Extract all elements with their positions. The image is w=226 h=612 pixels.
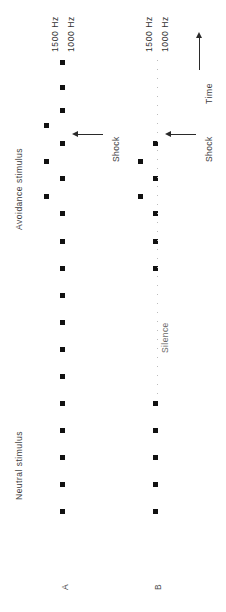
panel-b-shock-arrow-head — [165, 131, 171, 137]
silence-dot — [157, 366, 158, 367]
silence-dot — [157, 267, 158, 268]
silence-dot — [157, 123, 158, 124]
silence-dot — [157, 150, 158, 151]
silence-dot — [157, 132, 158, 133]
silence-dot — [157, 294, 158, 295]
silence-dot — [157, 375, 158, 376]
silence-dot — [157, 240, 158, 241]
panel-label-a: A — [60, 584, 70, 590]
tone-marker — [60, 176, 65, 181]
panel-a-shock-arrow-line — [77, 134, 103, 135]
tone-marker — [44, 194, 49, 199]
silence-dot — [157, 177, 158, 178]
silence-dot — [157, 96, 158, 97]
tone-marker — [153, 482, 158, 487]
silence-label: Silence — [160, 320, 170, 355]
tone-marker — [60, 293, 65, 298]
category-label-neutral: Neutral stimulus — [14, 431, 24, 500]
time-axis-label: Time — [204, 83, 214, 104]
silence-dot — [157, 195, 158, 196]
silence-dot — [157, 213, 158, 214]
time-arrow-line — [199, 38, 200, 70]
tone-marker — [60, 428, 65, 433]
silence-dot — [157, 393, 158, 394]
tone-marker — [44, 159, 49, 164]
tone-marker — [60, 211, 65, 216]
silence-dot — [157, 276, 158, 277]
panel-a-shock-arrow-head — [72, 131, 78, 137]
stimulus-timeline-figure: Avoidance stimulus Neutral stimulus 1500… — [0, 0, 226, 612]
silence-dot — [157, 339, 158, 340]
silence-dot — [157, 348, 158, 349]
tone-marker — [60, 85, 65, 90]
tone-marker — [60, 60, 65, 65]
category-label-avoidance: Avoidance stimulus — [14, 148, 24, 230]
tone-marker — [60, 482, 65, 487]
time-arrow-head — [196, 32, 202, 38]
tone-marker — [153, 428, 158, 433]
tone-marker — [138, 159, 143, 164]
silence-dot — [157, 258, 158, 259]
silence-dot — [157, 168, 158, 169]
tone-marker — [44, 123, 49, 128]
silence-dot — [157, 384, 158, 385]
panel-a-shock-label: Shock — [111, 136, 121, 162]
silence-dot — [157, 312, 158, 313]
silence-dot — [157, 222, 158, 223]
silence-dot — [157, 114, 158, 115]
tone-marker — [153, 401, 158, 406]
silence-dot — [157, 186, 158, 187]
panel-b-track-label-1000hz: 1000 Hz — [160, 16, 170, 52]
panel-a-track-label-1500hz: 1500 Hz — [50, 16, 60, 52]
panel-a-track-label-1000hz: 1000 Hz — [66, 16, 76, 52]
silence-dot — [157, 357, 158, 358]
silence-dot — [157, 78, 158, 79]
silence-dot — [157, 105, 158, 106]
silence-dot — [157, 69, 158, 70]
silence-dot — [157, 249, 158, 250]
silence-dot — [157, 60, 158, 61]
tone-marker — [153, 455, 158, 460]
panel-b-track-label-1500hz: 1500 Hz — [144, 16, 154, 52]
silence-dot — [157, 159, 158, 160]
silence-dot — [157, 303, 158, 304]
silence-dot — [157, 330, 158, 331]
silence-dot — [157, 204, 158, 205]
tone-marker — [60, 108, 65, 113]
silence-dot — [157, 321, 158, 322]
panel-label-b: B — [153, 584, 163, 590]
tone-marker — [60, 374, 65, 379]
panel-b-shock-label: Shock — [204, 136, 214, 162]
tone-marker — [60, 141, 65, 146]
tone-marker — [60, 266, 65, 271]
tone-marker — [153, 509, 158, 514]
silence-dot — [157, 141, 158, 142]
panel-b-shock-arrow-line — [170, 134, 196, 135]
silence-dot — [157, 285, 158, 286]
tone-marker — [60, 320, 65, 325]
tone-marker — [60, 239, 65, 244]
silence-dot — [157, 87, 158, 88]
tone-marker — [138, 194, 143, 199]
tone-marker — [60, 455, 65, 460]
tone-marker — [60, 347, 65, 352]
silence-dot — [157, 231, 158, 232]
tone-marker — [60, 509, 65, 514]
tone-marker — [60, 401, 65, 406]
